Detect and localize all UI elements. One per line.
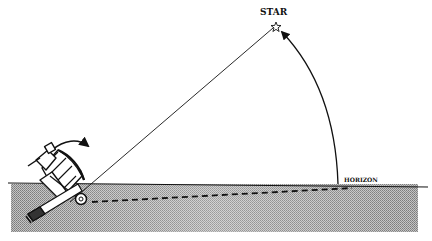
star-label: STAR (260, 7, 288, 17)
rotation-arrow-icon (52, 141, 88, 150)
star-icon (271, 22, 281, 32)
altitude-arc (282, 32, 338, 184)
sight-line (70, 28, 273, 202)
sextant-diagram: STAR HORIZON (0, 0, 432, 241)
horizon-label: HORIZON (344, 176, 378, 183)
